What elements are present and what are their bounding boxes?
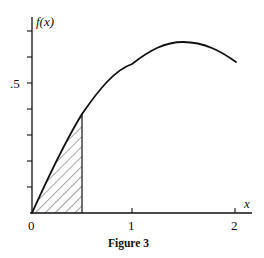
x-ticks	[132, 208, 235, 213]
y-axis-label: f(x)	[36, 15, 54, 28]
x-tick-label-2: 2	[231, 219, 238, 232]
x-tick-label-0: 0	[28, 219, 35, 232]
x-axis-label: x	[244, 197, 250, 210]
y-tick-label-0-5: .5	[10, 77, 20, 90]
y-ticks	[27, 31, 32, 187]
figure-caption: Figure 3	[108, 238, 149, 250]
x-tick-label-1: 1	[128, 219, 135, 232]
